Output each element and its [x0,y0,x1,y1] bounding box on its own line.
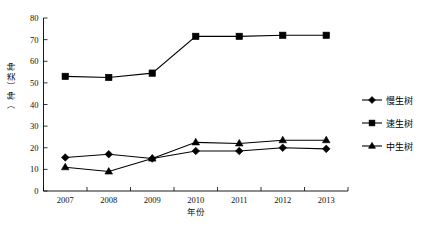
series-1 [61,144,330,162]
x-tick-label: 2007 [57,195,74,205]
y-tick-label: 20 [30,143,39,153]
y-tick-label: 60 [30,56,39,66]
y-tick-label: 10 [30,164,39,174]
x-axis-tick-labels: 2007200820092010201120122013 [57,195,335,205]
data-point-square [323,32,329,38]
series-2 [62,32,329,81]
data-point-diamond [279,144,287,152]
y-axis-tick-labels: 01020304050607080 [30,13,39,196]
y-tick-label: 80 [30,13,39,23]
data-point-square [149,70,155,76]
y-axis-tick-marks [44,18,48,191]
chart-legend: 慢生树速生树中生树 [362,95,413,152]
data-point-square [236,33,242,39]
legend-item-2[interactable]: 速生树 [362,118,413,129]
data-point-square [62,73,68,79]
data-point-triangle [61,163,69,170]
legend-item-1[interactable]: 慢生树 [362,95,413,106]
y-tick-label: 0 [34,186,38,196]
legend-label: 速生树 [386,118,413,129]
data-point-square [106,74,112,80]
series-line [65,35,326,77]
data-point-square [193,33,199,39]
x-tick-label: 2008 [100,195,117,205]
x-tick-label: 2013 [318,195,335,205]
data-point-triangle [192,138,200,145]
data-point-diamond [322,145,330,153]
x-axis-tick-marks [44,187,349,191]
data-point-diamond [192,147,200,155]
x-tick-label: 2011 [231,195,248,205]
data-series-group [61,32,330,174]
data-point-diamond [61,154,69,162]
data-point-diamond [235,147,243,155]
y-tick-label: 40 [30,100,39,110]
data-point-triangle [279,136,287,143]
legend-label: 中生树 [386,141,413,152]
data-point-square [369,120,375,126]
legend-label: 慢生树 [386,95,413,106]
y-tick-label: 50 [30,78,39,88]
x-tick-label: 2010 [187,195,204,205]
data-point-square [280,32,286,38]
x-tick-label: 2012 [274,195,291,205]
chart-plot-area: 01020304050607080 2007200820092010201120… [0,0,424,228]
axis-lines [44,18,349,191]
chart-container: 种 类 （ 种 ） 01020304050607080 200720082009… [0,0,424,228]
data-point-triangle [322,136,330,143]
data-point-diamond [105,150,113,158]
data-point-triangle [369,142,376,148]
data-point-diamond [369,97,376,104]
x-axis-title: 年份 [187,207,205,217]
x-tick-label: 2009 [144,195,161,205]
legend-item-3[interactable]: 中生树 [362,141,413,152]
y-tick-label: 70 [30,35,39,45]
y-tick-label: 30 [30,121,39,131]
